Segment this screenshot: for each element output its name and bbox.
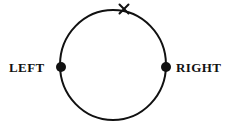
diagram-canvas: LEFT RIGHT — [0, 0, 232, 130]
left-point-dot[interactable] — [56, 62, 66, 72]
circle-outline — [60, 10, 166, 120]
right-point-label: RIGHT — [176, 61, 221, 74]
left-point-label: LEFT — [9, 61, 45, 74]
top-cross-icon — [120, 5, 129, 14]
right-point-dot[interactable] — [161, 62, 171, 72]
